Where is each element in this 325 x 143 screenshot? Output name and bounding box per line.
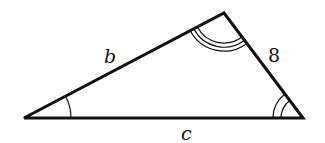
triangle <box>24 13 303 118</box>
angle-mark-left <box>66 96 71 118</box>
triangle-diagram: b 8 c <box>0 0 325 143</box>
side-label-b: b <box>104 45 116 67</box>
side-label-a: 8 <box>268 44 280 66</box>
side-label-c: c <box>181 122 192 143</box>
